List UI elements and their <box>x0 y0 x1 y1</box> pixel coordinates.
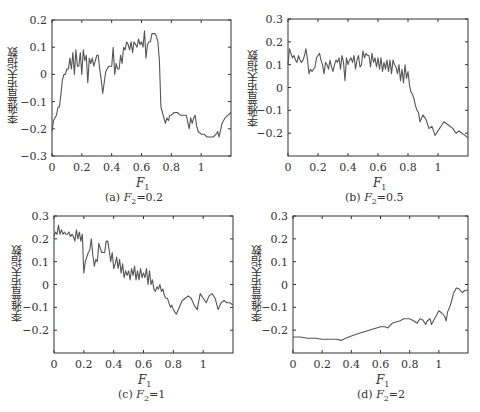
axes-box <box>52 20 231 156</box>
panel-caption: (c) F2=1 <box>118 388 165 403</box>
x-tick-label: 0.6 <box>133 161 151 174</box>
y-tick-label: −0.1 <box>20 96 47 109</box>
x-tick-label: 0.6 <box>135 358 153 371</box>
axes-box <box>54 216 233 353</box>
x-axis-label: F1 <box>373 176 386 192</box>
data-line <box>288 49 468 138</box>
x-tick-label: 0.8 <box>399 161 417 174</box>
x-tick-label: 1 <box>200 358 207 371</box>
x-axis-label: F1 <box>136 176 149 192</box>
figure: 00.20.40.60.810.20.10−0.1−0.2−0.300.20.4… <box>0 0 480 412</box>
x-tick-label: 1 <box>198 161 205 174</box>
y-tick-label: 0 <box>276 82 283 95</box>
y-tick-label: −0.2 <box>256 127 283 140</box>
x-axis-label: F1 <box>138 373 151 389</box>
x-tick-label: 0.8 <box>165 358 183 371</box>
y-tick-label: 0 <box>42 279 49 292</box>
x-tick-label: 0.4 <box>339 161 357 174</box>
y-tick-label: 0.2 <box>32 233 50 246</box>
y-tick-label: 0.1 <box>266 59 284 72</box>
x-tick-label: 0.8 <box>163 161 181 174</box>
y-tick-label: −0.2 <box>261 324 288 337</box>
y-tick-label: 0.2 <box>271 233 289 246</box>
x-tick-label: 0.8 <box>401 358 419 371</box>
plot-c: 00.20.40.60.810.30.20.10−0.1−0.2 <box>22 210 233 371</box>
plot-d: 00.20.40.60.810.30.20.10−0.1−0.2 <box>261 210 468 371</box>
panel-caption: (d) F2=2 <box>357 388 405 403</box>
y-tick-label: 0.2 <box>30 14 48 27</box>
x-tick-label: 0.4 <box>103 161 121 174</box>
plots-canvas: 00.20.40.60.810.20.10−0.1−0.2−0.300.20.4… <box>0 0 480 412</box>
y-tick-label: 0 <box>281 279 288 292</box>
y-axis-label: 李雅普诺夫指数 <box>6 47 22 124</box>
x-tick-label: 1 <box>435 161 442 174</box>
panel-caption: (b) F2=0.5 <box>345 191 404 206</box>
data-line <box>293 288 468 341</box>
y-tick-label: −0.2 <box>22 324 49 337</box>
x-tick-label: 0 <box>49 161 56 174</box>
x-tick-label: 0 <box>290 358 297 371</box>
x-tick-label: 0.4 <box>343 358 361 371</box>
y-axis-label: 李雅普诺夫指数 <box>10 245 26 322</box>
x-tick-label: 0 <box>51 358 58 371</box>
x-axis-label: F1 <box>376 373 389 389</box>
y-tick-label: 0 <box>40 68 47 81</box>
y-tick-label: 0.1 <box>30 41 48 54</box>
y-axis-label: 李雅普诺夫指数 <box>250 245 266 322</box>
axes-box <box>293 216 468 353</box>
panel-caption: (a) F2=0.2 <box>105 191 163 206</box>
x-tick-label: 0.4 <box>105 358 123 371</box>
y-tick-label: 0.3 <box>32 210 50 223</box>
y-axis-label: 李雅普诺夫指数 <box>246 50 262 127</box>
x-tick-label: 0.6 <box>369 161 387 174</box>
y-tick-label: −0.1 <box>22 301 49 314</box>
x-tick-label: 0.2 <box>73 161 91 174</box>
y-tick-label: 0.3 <box>266 13 284 26</box>
data-line <box>52 31 231 137</box>
y-tick-label: −0.3 <box>20 150 47 163</box>
x-tick-label: 0 <box>285 161 292 174</box>
x-tick-label: 0.2 <box>75 358 93 371</box>
y-tick-label: 0.3 <box>271 210 289 223</box>
y-tick-label: −0.2 <box>20 123 47 136</box>
plot-a: 00.20.40.60.810.20.10−0.1−0.2−0.3 <box>20 14 231 174</box>
data-line <box>54 225 233 314</box>
x-tick-label: 0.2 <box>309 161 327 174</box>
y-tick-label: 0.2 <box>266 36 284 49</box>
y-tick-label: 0.1 <box>271 256 289 269</box>
x-tick-label: 1 <box>435 358 442 371</box>
plot-b: 00.20.40.60.810.30.20.10−0.1−0.2 <box>256 13 468 174</box>
y-tick-label: 0.1 <box>32 256 50 269</box>
x-tick-label: 0.6 <box>372 358 390 371</box>
axes-box <box>288 19 468 156</box>
x-tick-label: 0.2 <box>313 358 331 371</box>
